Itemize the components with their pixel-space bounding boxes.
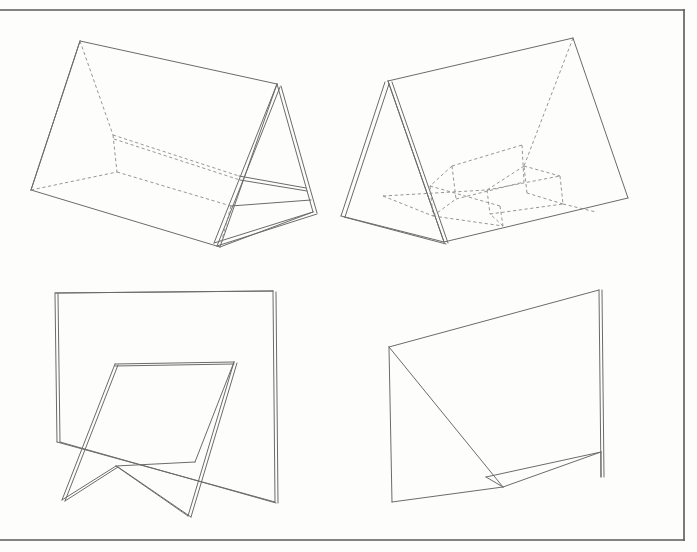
- figure-1-edge-14: [231, 200, 311, 206]
- figure-4-edge-6: [503, 452, 601, 487]
- figure-2-hidden-edge-22: [563, 204, 596, 212]
- figure-2-hidden-edge-5: [522, 145, 524, 182]
- figure-3-edge-11: [65, 365, 118, 501]
- figure-1-edge-4: [277, 84, 313, 212]
- figure-3-edge-2: [58, 294, 60, 442]
- figure-2-hidden-edge-3: [452, 166, 456, 199]
- figure-2-edge-9: [344, 217, 446, 244]
- figure-3-edge-10: [62, 364, 115, 500]
- figure-3-edge-4: [276, 292, 278, 503]
- figure-1-edge-5: [281, 86, 317, 213]
- figure-3-edge-7: [60, 442, 276, 503]
- figure-2-hidden-edge-10: [433, 216, 503, 226]
- figure-2-hidden-edge-2: [452, 145, 522, 166]
- figure-2-hidden-edge-12: [524, 166, 560, 176]
- figure-1-edge-12: [239, 176, 306, 188]
- figure-1-hidden-edge-3: [114, 139, 240, 180]
- figure-4-edge-4: [389, 347, 503, 487]
- figure-2-edge-5: [345, 84, 389, 217]
- figure-4-panel-with-diagonal-fold: [389, 290, 604, 502]
- figure-2-edge-2: [444, 198, 628, 242]
- figure-1-edge-6: [214, 84, 277, 243]
- figure-3-edge-3: [273, 291, 275, 502]
- drawing-sheet: [0, 0, 697, 552]
- figure-4-edge-8: [486, 452, 601, 477]
- figure-1-edge-11: [31, 41, 80, 190]
- figure-1-edge-2: [31, 190, 220, 247]
- figure-2-hidden-edge-9: [430, 186, 500, 206]
- figure-1-hidden-edge-1: [113, 135, 117, 172]
- figure-2-edge-7: [392, 82, 448, 243]
- figure-1-edge-0: [80, 41, 277, 84]
- figure-1-hidden-edge-0: [80, 41, 113, 135]
- figure-4-edge-1: [599, 290, 601, 477]
- figure-1-hidden-edge-5: [117, 172, 231, 206]
- figure-2-hidden-edge-15: [524, 166, 527, 193]
- figure-2-hidden-edge-8: [433, 199, 456, 216]
- figure-1-hidden-edge-2: [113, 135, 239, 176]
- figure-2-edge-0: [388, 38, 573, 81]
- figure-2-open-folded-panel: [341, 38, 628, 244]
- figure-4-edge-5: [392, 487, 503, 502]
- page-border: [0, 10, 684, 540]
- figure-1-edge-10: [220, 212, 313, 247]
- figure-2-hidden-edge-7: [430, 186, 433, 216]
- figure-4-edge-7: [486, 477, 503, 487]
- figure-2-hidden-edge-6: [430, 166, 452, 186]
- figure-3-edge-17: [118, 467, 191, 517]
- figure-3-edge-13: [191, 363, 237, 517]
- figure-3-back-panel-with-stand: [55, 291, 278, 517]
- figure-1-edge-9: [217, 214, 317, 246]
- figure-3-edge-18: [116, 462, 195, 466]
- figure-3-edge-5: [55, 291, 273, 293]
- figure-4-edge-0: [389, 290, 599, 347]
- figure-1-hidden-edge-6: [220, 206, 231, 247]
- figure-2-hidden-edge-20: [383, 196, 433, 216]
- figure-3-edge-14: [62, 466, 116, 500]
- figure-2-edge-1: [573, 38, 628, 198]
- figure-2-edge-6: [388, 81, 444, 242]
- figure-4-edge-2: [602, 290, 604, 477]
- figure-2-edge-4: [341, 82, 385, 216]
- figure-1-edge-7: [217, 87, 280, 246]
- line-drawing-canvas: [0, 0, 697, 552]
- figure-3-edge-8: [115, 362, 234, 364]
- figure-3-edge-1: [55, 294, 57, 442]
- figure-2-hidden-edge-13: [560, 176, 563, 204]
- figure-1-edge-13: [240, 180, 307, 191]
- figure-3-edge-19: [195, 362, 234, 462]
- figure-2-hidden-edge-19: [383, 190, 487, 196]
- figure-4-edge-3: [389, 347, 392, 502]
- figure-1-hidden-edge-4: [31, 172, 117, 190]
- figure-1-triangular-prism-tent: [31, 41, 317, 247]
- figure-2-hidden-edge-14: [527, 193, 563, 204]
- figure-2-hidden-edge-11: [500, 206, 503, 226]
- figure-3-edge-12: [188, 362, 234, 516]
- figure-3-edge-9: [115, 364, 234, 366]
- figure-2-hidden-edge-0: [524, 38, 573, 166]
